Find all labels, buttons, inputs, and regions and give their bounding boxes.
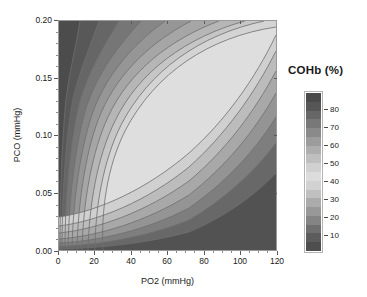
y-tick-005 xyxy=(54,193,58,194)
colorbar-band xyxy=(306,146,321,155)
x-tick-minor xyxy=(67,251,68,253)
x-tick-minor xyxy=(158,251,159,253)
colorbar xyxy=(304,91,323,253)
x-tick-0 xyxy=(58,251,59,255)
legend-title: COHb (%) xyxy=(288,64,343,76)
x-tick-minor xyxy=(267,251,268,253)
colorbar-band xyxy=(306,137,321,146)
colorbar-label: 60 xyxy=(330,141,339,150)
x-tick-minor xyxy=(176,251,177,253)
colorbar-label: 30 xyxy=(330,195,339,204)
x-tick-minor xyxy=(76,251,77,253)
x-tick-label: 120 xyxy=(270,256,284,266)
colorbar-band xyxy=(306,242,321,251)
y-tick-label: 0.00 xyxy=(10,246,52,256)
y-tick-minor xyxy=(56,32,58,33)
x-tick-minor xyxy=(103,251,104,253)
x-tick-minor xyxy=(85,251,86,253)
x-tick-60 xyxy=(167,251,168,255)
x-tick-80 xyxy=(204,251,205,255)
x-tick-label: 100 xyxy=(233,256,247,266)
colorbar-band xyxy=(306,102,321,111)
colorbar-label: 40 xyxy=(330,177,339,186)
x-tick-minor xyxy=(213,251,214,253)
y-tick-label: 0.20 xyxy=(10,15,52,25)
y-tick-010 xyxy=(54,135,58,136)
colorbar-tick xyxy=(324,217,328,218)
x-tick-minor xyxy=(185,251,186,253)
y-tick-minor xyxy=(56,124,58,125)
x-tick-label: 60 xyxy=(162,256,171,266)
contour-bands xyxy=(59,21,276,250)
x-tick-40 xyxy=(131,251,132,255)
y-tick-right xyxy=(274,78,277,79)
x-tick-label: 20 xyxy=(89,256,98,266)
x-tick-label: 80 xyxy=(199,256,208,266)
colorbar-label: 10 xyxy=(330,231,339,240)
colorbar-label: 80 xyxy=(330,105,339,114)
y-tick-minor xyxy=(56,158,58,159)
contour-figure: 0 20 40 60 80 100 120 0.00 0.05 0.10 0.1… xyxy=(0,0,367,297)
y-axis-title: PCO (mmHg) xyxy=(12,97,22,173)
y-tick-020 xyxy=(54,20,58,21)
colorbar-label: 50 xyxy=(330,159,339,168)
y-tick-minor xyxy=(56,181,58,182)
y-tick-minor xyxy=(56,55,58,56)
colorbar-band xyxy=(306,225,321,234)
y-tick-minor xyxy=(56,147,58,148)
x-tick-minor xyxy=(149,251,150,253)
x-axis-title: PO2 (mmHg) xyxy=(58,276,277,286)
colorbar-label: 70 xyxy=(330,123,339,132)
colorbar-band xyxy=(306,181,321,190)
y-tick-015 xyxy=(54,78,58,79)
x-tick-top xyxy=(131,21,132,24)
contour-surface xyxy=(59,21,276,250)
y-tick-minor xyxy=(56,239,58,240)
x-tick-minor xyxy=(258,251,259,253)
y-tick-minor xyxy=(56,89,58,90)
y-tick-minor xyxy=(56,66,58,67)
colorbar-band xyxy=(306,163,321,172)
x-tick-top xyxy=(240,21,241,24)
colorbar-tick xyxy=(324,163,328,164)
x-tick-minor xyxy=(249,251,250,253)
x-tick-top xyxy=(94,21,95,24)
x-tick-label: 0 xyxy=(56,256,61,266)
colorbar-band xyxy=(306,233,321,242)
x-tick-minor xyxy=(222,251,223,253)
x-tick-minor xyxy=(140,251,141,253)
x-tick-minor xyxy=(231,251,232,253)
x-tick-top xyxy=(204,21,205,24)
x-tick-minor xyxy=(112,251,113,253)
y-tick-right xyxy=(274,193,277,194)
colorbar-tick xyxy=(324,181,328,182)
colorbar-tick xyxy=(324,199,328,200)
y-tick-minor xyxy=(56,228,58,229)
x-tick-label: 40 xyxy=(126,256,135,266)
colorbar-label: 20 xyxy=(330,213,339,222)
colorbar-tick xyxy=(324,235,328,236)
y-tick-label: 0.15 xyxy=(10,73,52,83)
colorbar-band xyxy=(306,190,321,199)
x-tick-120 xyxy=(277,251,278,255)
y-tick-000 xyxy=(54,251,58,252)
colorbar-gradient xyxy=(306,93,321,251)
colorbar-band xyxy=(306,154,321,163)
colorbar-tick xyxy=(324,127,328,128)
colorbar-tick xyxy=(324,145,328,146)
plot-area xyxy=(58,20,277,251)
y-tick-label: 0.05 xyxy=(10,188,52,198)
x-tick-100 xyxy=(240,251,241,255)
y-tick-minor xyxy=(56,216,58,217)
x-tick-20 xyxy=(94,251,95,255)
y-tick-minor xyxy=(56,170,58,171)
y-tick-minor xyxy=(56,43,58,44)
y-tick-minor xyxy=(56,205,58,206)
colorbar-band xyxy=(306,111,321,120)
y-tick-right xyxy=(274,135,277,136)
colorbar-band xyxy=(306,198,321,207)
y-tick-minor xyxy=(56,101,58,102)
x-tick-minor xyxy=(194,251,195,253)
x-tick-minor xyxy=(121,251,122,253)
x-tick-top xyxy=(167,21,168,24)
